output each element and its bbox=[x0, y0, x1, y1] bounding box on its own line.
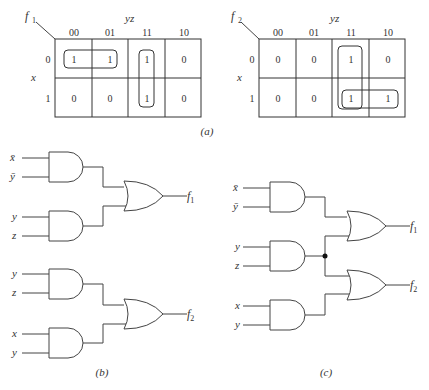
kmap-cell: 0 bbox=[386, 54, 391, 65]
kmap-col-header: 00 bbox=[69, 27, 79, 38]
kmap-cell: 0 bbox=[182, 93, 187, 104]
and-gate bbox=[270, 182, 305, 212]
and-gate bbox=[49, 269, 83, 299]
kmap-corner-line bbox=[36, 22, 55, 39]
input-label: x̄ bbox=[9, 151, 15, 163]
kmap-col-header: 11 bbox=[142, 27, 152, 38]
kmap-col-header: 11 bbox=[346, 27, 356, 38]
kmap-col-header: 10 bbox=[383, 27, 393, 38]
input-label: y bbox=[234, 240, 240, 252]
caption-c: (c) bbox=[320, 366, 333, 379]
kmap-row-header: 1 bbox=[46, 93, 51, 104]
kmap-cell: 0 bbox=[312, 93, 317, 104]
output-f1: f1 bbox=[187, 189, 194, 205]
kmap-cell: 0 bbox=[276, 54, 281, 65]
kmap-row-header: 1 bbox=[250, 93, 255, 104]
or-gate bbox=[347, 270, 386, 300]
kmap-f2-label: f bbox=[231, 9, 236, 23]
kmap-cell: 0 bbox=[72, 93, 77, 104]
input-label: ȳ bbox=[232, 200, 239, 212]
kmap-f1-subscript: 1 bbox=[32, 16, 36, 25]
kmap-cell: 1 bbox=[349, 54, 354, 65]
diagram-canvas: f yz x 00 01 11 10 0 1 1 1 1 0 0 0 1 0 f… bbox=[0, 0, 429, 390]
kmap-row-header: 0 bbox=[46, 54, 51, 65]
circuit-c: x̄ ȳ y z f1 x y f2 bbox=[232, 181, 417, 330]
output-f1: f1 bbox=[410, 219, 417, 235]
input-label: z bbox=[11, 286, 17, 298]
kmap-col-header: 01 bbox=[105, 27, 115, 38]
kmap-cell: 1 bbox=[145, 54, 150, 65]
kmap-cell: 0 bbox=[108, 93, 113, 104]
kmap-col-var: yz bbox=[124, 12, 135, 24]
or-gate bbox=[124, 181, 163, 211]
and-gate bbox=[49, 152, 83, 182]
kmap-f2: f yz x 00 01 11 10 0 1 0 0 1 0 0 0 1 1 bbox=[231, 9, 405, 117]
kmap-row-header: 0 bbox=[250, 54, 255, 65]
and-gate bbox=[270, 241, 305, 271]
kmap-f1: f yz x 00 01 11 10 0 1 1 1 1 0 0 0 1 0 bbox=[25, 9, 201, 117]
or-gate bbox=[347, 211, 386, 241]
or-gate bbox=[124, 299, 163, 329]
kmap-cell: 1 bbox=[72, 54, 77, 65]
kmap-f2-subscript: 2 bbox=[238, 16, 242, 25]
and-gate bbox=[270, 300, 305, 330]
output-f2: f2 bbox=[410, 278, 417, 294]
kmap-cell: 1 bbox=[386, 93, 391, 104]
junction-dot bbox=[323, 254, 328, 259]
kmap-row-var: x bbox=[30, 71, 36, 83]
kmap-corner-line bbox=[241, 22, 259, 39]
kmap-row-var: x bbox=[236, 71, 242, 83]
caption-b: (b) bbox=[96, 366, 109, 379]
kmap-cell: 0 bbox=[276, 93, 281, 104]
input-label: z bbox=[234, 259, 240, 271]
output-f2: f2 bbox=[187, 307, 194, 323]
kmap-col-header: 01 bbox=[309, 27, 319, 38]
kmap-col-header: 10 bbox=[179, 27, 189, 38]
input-label: ȳ bbox=[9, 170, 16, 182]
kmap-col-var: yz bbox=[329, 12, 340, 24]
input-label: x̄ bbox=[232, 181, 238, 193]
kmap-f1-label: f bbox=[25, 9, 30, 23]
kmap-cell: 1 bbox=[108, 54, 113, 65]
input-label: z bbox=[11, 229, 17, 241]
kmap-col-header: 00 bbox=[273, 27, 283, 38]
kmap-cell: 1 bbox=[145, 93, 150, 104]
kmap-cell: 0 bbox=[182, 54, 187, 65]
circuit-b: x̄ ȳ y z f1 y z x y f2 bbox=[9, 151, 194, 358]
input-label: y bbox=[234, 318, 240, 330]
input-label: y bbox=[11, 346, 17, 358]
caption-a: (a) bbox=[201, 125, 214, 138]
input-label: y bbox=[11, 267, 17, 279]
input-label: x bbox=[11, 327, 17, 339]
input-label: x bbox=[234, 299, 240, 311]
kmap-cell: 1 bbox=[349, 93, 354, 104]
input-label: y bbox=[11, 210, 17, 222]
and-gate bbox=[49, 328, 83, 358]
and-gate bbox=[49, 211, 83, 241]
kmap-cell: 0 bbox=[312, 54, 317, 65]
